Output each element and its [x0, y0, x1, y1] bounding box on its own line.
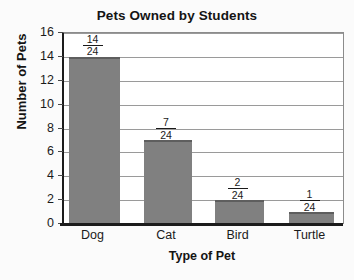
y-tick-label: 2 [24, 193, 54, 206]
y-tick-label: 16 [24, 26, 54, 39]
fraction-numerator: 1 [300, 189, 320, 201]
category-label-cat: Cat [131, 228, 201, 242]
fraction-numerator: 14 [83, 34, 103, 46]
fraction-denominator: 24 [290, 201, 330, 213]
chart-title: Pets Owned by Students [0, 8, 354, 23]
y-tick-mark [58, 80, 63, 81]
bar-bird [215, 200, 264, 224]
y-tick-label: 10 [24, 98, 54, 111]
y-tick-label: 14 [24, 50, 54, 63]
y-tick-label: 12 [24, 74, 54, 87]
y-tick-label: 6 [24, 145, 54, 158]
y-tick-mark [58, 199, 63, 200]
y-tick-label: 4 [24, 169, 54, 182]
x-axis-title: Type of Pet [62, 249, 342, 263]
y-tick-mark [58, 56, 63, 57]
y-tick-mark [58, 104, 63, 105]
y-tick-label: 0 [24, 217, 54, 230]
category-label-dog: Dog [58, 228, 128, 242]
bar-dog [69, 57, 120, 224]
fraction-denominator: 24 [146, 129, 186, 141]
fraction-numerator: 7 [156, 117, 176, 129]
category-label-turtle: Turtle [275, 228, 345, 242]
x-axis-line [60, 223, 343, 226]
bar-fraction-label: 1424 [73, 34, 113, 58]
y-tick-mark [58, 32, 63, 33]
fraction-denominator: 24 [218, 189, 258, 201]
fraction-denominator: 24 [73, 46, 113, 58]
fraction-numerator: 2 [228, 177, 248, 189]
bar-chart: Pets Owned by Students Number of Pets 16… [0, 0, 354, 280]
bar-fraction-label: 224 [218, 177, 258, 201]
bar-fraction-label: 724 [146, 117, 186, 141]
bar-cat [144, 140, 192, 224]
category-label-bird: Bird [203, 228, 273, 242]
y-tick-mark [58, 175, 63, 176]
y-tick-label: 8 [24, 122, 54, 135]
bar-fraction-label: 124 [290, 189, 330, 213]
y-tick-mark [58, 151, 63, 152]
y-tick-mark [58, 128, 63, 129]
